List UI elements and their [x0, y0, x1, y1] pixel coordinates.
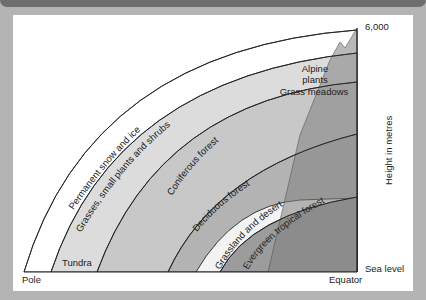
- axis-equator: Equator: [329, 274, 362, 285]
- label-alpine-2: plants: [302, 74, 328, 85]
- axis-top-value: 6,000: [365, 21, 389, 32]
- axis-y-label: Height in metres: [383, 116, 394, 185]
- label-tundra: Tundra: [62, 257, 92, 268]
- label-grass-meadows: Grass meadows: [280, 86, 349, 97]
- vegetation-zones-diagram: Permanent snow and ice Grasses, small pl…: [0, 0, 426, 300]
- axis-sea-level: Sea level: [365, 263, 404, 274]
- label-alpine-1: Alpine: [302, 63, 328, 74]
- axis-pole: Pole: [22, 274, 41, 285]
